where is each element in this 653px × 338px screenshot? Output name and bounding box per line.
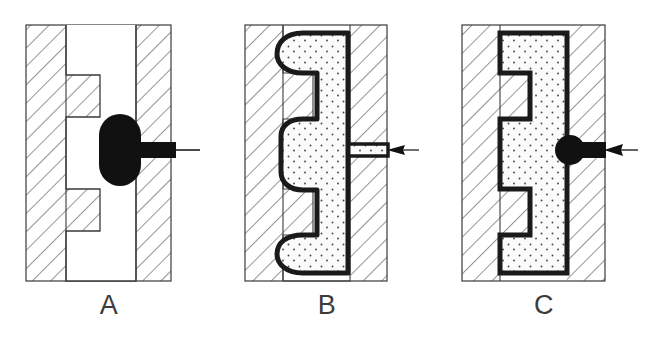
panel-b: B bbox=[218, 0, 436, 338]
panel-c: C bbox=[435, 0, 653, 338]
gate-channel-b bbox=[348, 144, 388, 156]
panel-a-drawing bbox=[0, 0, 218, 338]
melt-slug-a bbox=[99, 114, 141, 186]
gate-blob-c bbox=[555, 135, 585, 165]
panel-a: A bbox=[0, 0, 218, 338]
panel-b-caption: B bbox=[218, 292, 436, 319]
partial-fill-polymer-b bbox=[277, 33, 348, 273]
injection-arrow-c bbox=[604, 144, 638, 156]
panel-a-caption: A bbox=[0, 292, 218, 319]
panel-b-drawing bbox=[218, 0, 436, 338]
figure-root: Injection molding cavity filling sequenc… bbox=[0, 0, 653, 338]
panel-c-drawing bbox=[435, 0, 653, 338]
injection-arrow-b bbox=[387, 145, 419, 155]
panel-c-caption: C bbox=[435, 292, 653, 319]
